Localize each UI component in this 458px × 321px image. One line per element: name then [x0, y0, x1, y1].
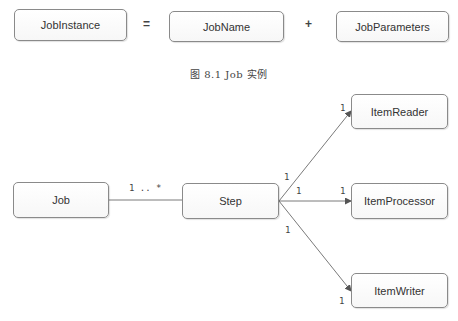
- itemprocessor-label: ItemProcessor: [364, 195, 435, 207]
- step-writer-target-mult: 1: [339, 296, 344, 306]
- step-processor-target-mult: 1: [340, 186, 345, 196]
- itemwriter-box: ItemWriter: [351, 273, 448, 308]
- step-writer-arrow: [279, 201, 351, 291]
- step-processor-source-mult: 1: [296, 186, 301, 196]
- job-label: Job: [52, 194, 70, 206]
- step-writer-source-mult: 1: [285, 225, 290, 235]
- itemreader-label: ItemReader: [371, 106, 428, 118]
- step-box: Step: [182, 183, 279, 219]
- step-reader-target-mult: 1: [340, 103, 345, 113]
- step-reader-source-mult: 1: [284, 172, 289, 182]
- step-label: Step: [219, 195, 242, 207]
- itemprocessor-box: ItemProcessor: [351, 183, 448, 219]
- itemreader-box: ItemReader: [351, 94, 448, 129]
- job-step-multiplicity: 1 .. *: [129, 183, 162, 193]
- job-box: Job: [13, 182, 109, 218]
- itemwriter-label: ItemWriter: [374, 285, 425, 297]
